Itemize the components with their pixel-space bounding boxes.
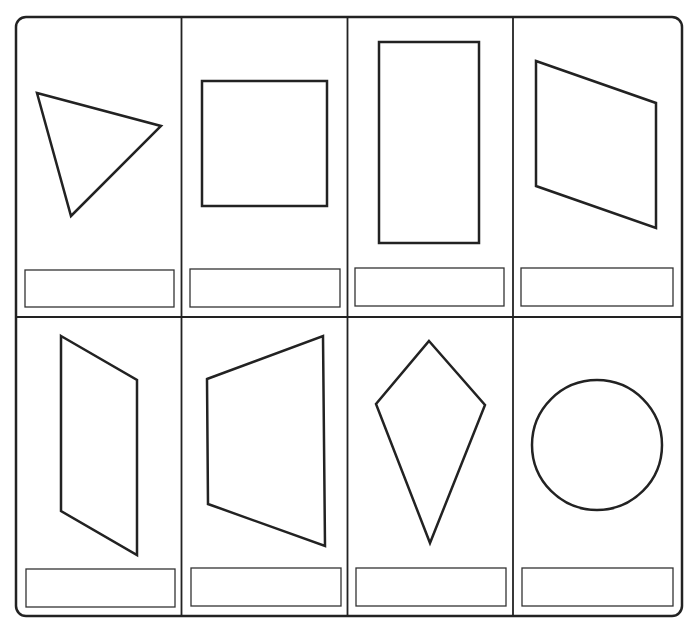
circle-shape [532,380,662,510]
answer-box[interactable] [356,568,506,606]
trapezoid-shape [207,336,325,546]
answer-box[interactable] [190,269,340,307]
triangle-shape [37,93,161,216]
parallelogram-shape [536,61,656,228]
card-parallelogram [521,61,673,306]
answer-box[interactable] [521,268,673,306]
answer-box[interactable] [522,568,673,606]
card-trapezoid [191,336,341,606]
answer-box[interactable] [355,268,504,306]
answer-box[interactable] [26,569,175,607]
square-shape [202,81,327,206]
parallelogram-vertical-shape [61,336,137,555]
answer-box[interactable] [25,270,174,307]
card-parallelogram-vertical [26,336,175,607]
card-kite [356,341,506,606]
answer-box[interactable] [191,568,341,606]
shape-worksheet [0,0,695,630]
card-circle [522,380,673,606]
card-triangle [25,93,174,307]
card-square [190,81,340,307]
rectangle-shape [379,42,479,243]
kite-shape [376,341,485,543]
card-rectangle [355,42,504,306]
